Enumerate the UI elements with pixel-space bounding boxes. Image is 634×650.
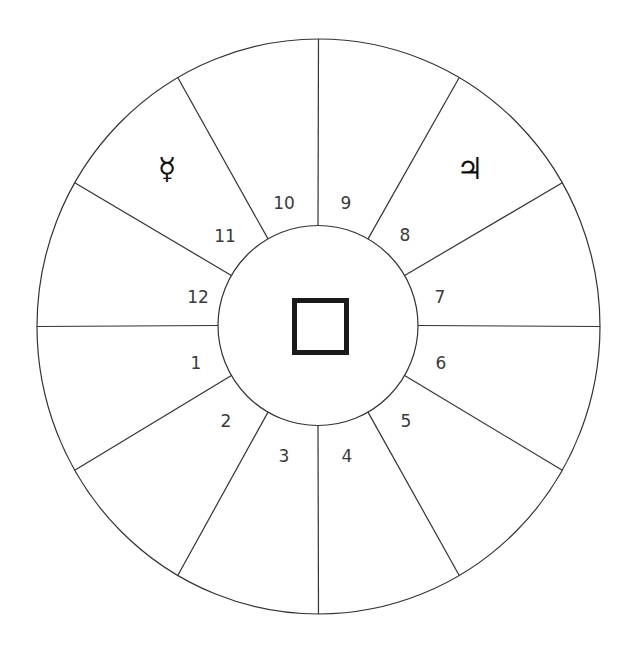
house-divider-line [178,412,268,575]
house-divider-line [37,326,218,327]
house-number-10: 10 [273,193,295,213]
house-divider-line [75,376,232,471]
house-number-7: 7 [435,287,446,307]
house-number-12: 12 [187,287,209,307]
mercury-icon: ☿ [158,151,176,186]
house-number-3: 3 [279,446,290,466]
house-divider-line [318,426,319,615]
house-number-5: 5 [401,411,412,431]
inner-circle [218,226,418,426]
house-divider-line [318,39,319,226]
house-wheel-diagram: 123456789101112 ☿♃ [0,0,634,650]
house-divider-line [178,78,268,239]
house-number-4: 4 [342,446,353,466]
house-divider-line [405,183,563,276]
house-number-9: 9 [341,193,352,213]
house-number-8: 8 [400,225,411,245]
house-divider-line [368,78,459,239]
house-divider-line [75,183,232,276]
house-divider-line [405,376,563,471]
house-divider-line [368,412,459,575]
house-divider-line [418,326,600,327]
house-number-1: 1 [191,353,202,373]
planet-glyphs: ☿♃ [158,151,484,186]
house-number-6: 6 [436,353,447,373]
house-number-2: 2 [221,411,232,431]
house-number-11: 11 [214,226,236,246]
jupiter-icon: ♃ [457,151,484,186]
